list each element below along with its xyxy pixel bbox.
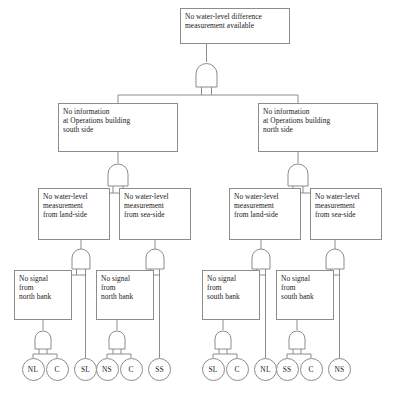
basic-event-circle: SS — [148, 358, 171, 381]
and-gate-top — [196, 64, 217, 87]
level3-box-north-landside: No water-level measurement from land-sid… — [229, 188, 301, 240]
level4-box-north-bank-2: No signal from north bank — [96, 270, 154, 320]
basic-event-circle: SL — [202, 358, 225, 381]
basic-event-circle: C — [46, 358, 69, 381]
and-gate-l2-right — [288, 164, 308, 186]
basic-event-circle: SL — [74, 358, 97, 381]
level4-box-north-bank-1: No signal from north bank — [14, 270, 72, 320]
basic-event-circle: NS — [96, 358, 119, 381]
basic-event-circle: NL — [254, 358, 277, 381]
basic-event-circle: NL — [22, 358, 45, 381]
and-gate-l3-a — [72, 249, 90, 269]
basic-event-circle: C — [120, 358, 143, 381]
and-gate-l4-d — [289, 331, 305, 349]
level3-box-south-landside: No water-level measurement from land-sid… — [38, 188, 110, 240]
and-gate-l3-d — [326, 249, 344, 269]
and-gate-l3-c — [252, 249, 270, 269]
and-gate-l3-b — [146, 249, 164, 269]
and-gate-l4-b — [109, 331, 125, 349]
and-gate-l4-c — [215, 331, 231, 349]
top-event-box: No water-level difference measurement av… — [180, 8, 290, 44]
level3-box-north-seaside: No water-level measurement from sea-side — [310, 188, 382, 240]
level2-box-south: No information at Operations building so… — [58, 103, 178, 152]
basic-event-circle: NS — [328, 358, 351, 381]
level3-box-south-seaside: No water-level measurement from sea-side — [119, 188, 191, 240]
and-gate-l4-a — [35, 331, 51, 349]
and-gate-l2-left — [108, 164, 128, 186]
level4-box-south-bank-1: No signal from south bank — [202, 270, 260, 320]
level2-box-north: No information at Operations building no… — [258, 103, 378, 152]
basic-event-circle: SS — [276, 358, 299, 381]
basic-event-circle: C — [300, 358, 323, 381]
basic-event-circle: C — [226, 358, 249, 381]
level4-box-south-bank-3: No signal from south bank — [276, 270, 334, 320]
